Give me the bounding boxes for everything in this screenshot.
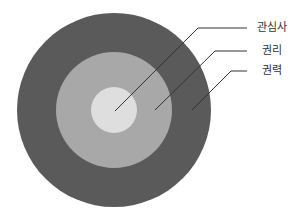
- label-power: 권력: [252, 65, 292, 77]
- label-rights: 권리: [252, 45, 292, 57]
- label-interests: 관심사: [252, 22, 292, 34]
- ring-interests: [91, 87, 137, 133]
